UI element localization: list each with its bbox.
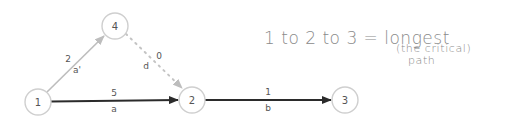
edge-activity-label: d [143, 61, 149, 71]
edge-activity-label: a' [73, 65, 81, 75]
edge-activity-label: b [265, 103, 271, 113]
node-1: 1 [25, 89, 51, 115]
handwritten-annotation: 1 to 2 to 3 = longest (the critical) pat… [264, 28, 471, 67]
edge-1-to-2: 5 a [51, 88, 178, 114]
edge-activity-label: a [111, 104, 117, 114]
edge-duration-label: 5 [111, 88, 117, 98]
edge-duration-label: 1 [265, 87, 271, 97]
edge-2-to-3: 1 b [205, 87, 331, 113]
critical-edge-line [51, 100, 178, 102]
node-label: 1 [35, 97, 41, 108]
node-3: 3 [332, 87, 358, 113]
node-label: 3 [342, 95, 348, 106]
node-2: 2 [179, 87, 205, 113]
dummy-edge-line [126, 34, 182, 88]
edge-1-to-4: 2 a' [47, 36, 104, 92]
network-diagram: 2 a' 0 d 5 a 1 b 1 2 3 4 1 to 2 to 3 = l… [0, 0, 526, 125]
node-label: 4 [112, 21, 118, 32]
edge-duration-label: 0 [156, 51, 162, 61]
edge-line [47, 36, 104, 92]
edge-4-to-2: 0 d [126, 34, 182, 88]
node-4: 4 [102, 13, 128, 39]
node-label: 2 [189, 95, 195, 106]
edge-duration-label: 2 [65, 54, 71, 64]
annotation-line-3: path [408, 54, 435, 67]
